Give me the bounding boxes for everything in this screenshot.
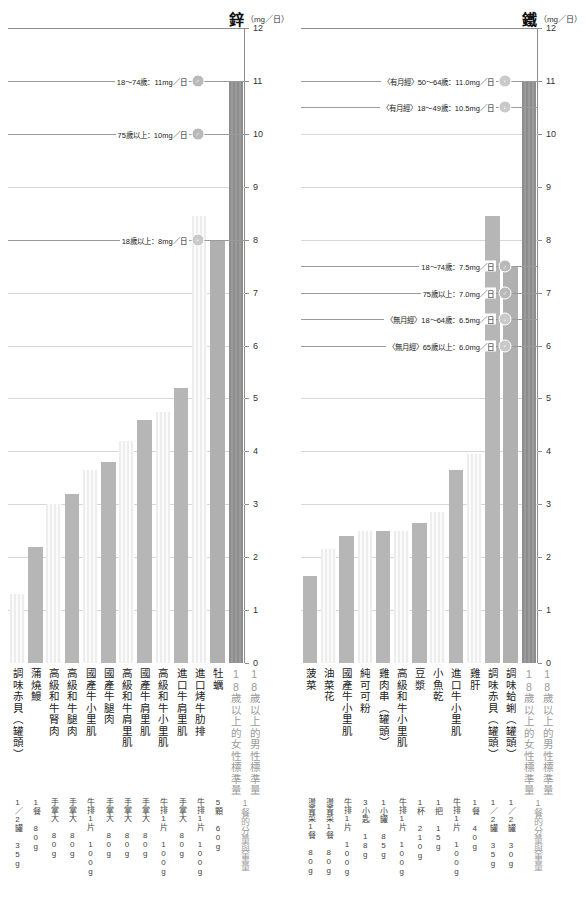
y-axis-tick-label: 11 — [253, 76, 262, 86]
category-label-3: 純可可粉 — [359, 668, 370, 714]
standard-label-male: 18歲以上的男性標準量 — [248, 668, 259, 797]
serving-size-4: 牛排1片 100g — [85, 798, 94, 876]
serving-size-10: 牛排1片 100g — [194, 798, 203, 876]
bar-zinc-7 — [137, 420, 152, 663]
category-label-7: 國產牛肩里肌 — [139, 668, 150, 737]
bar-iron-10 — [485, 216, 500, 663]
y-axis-tickmark — [245, 663, 249, 664]
y-axis-tickmark — [538, 451, 542, 452]
serving-size-group: 燙青菜1餐 80g燙青菜1餐 80g牛排1片 100g3小匙 18g1小罐 85… — [301, 798, 538, 897]
y-axis-tick-label: 9 — [253, 182, 258, 192]
y-axis-tickmark — [245, 134, 249, 135]
bar-zinc-4 — [83, 470, 98, 663]
y-axis-tick-label: 0 — [253, 658, 258, 668]
y-axis-tickmark — [245, 398, 249, 399]
annotation-marker-female: ♀ — [498, 313, 511, 326]
annotation-marker-male: ♂ — [191, 127, 204, 140]
category-label-1: 油菜花 — [322, 668, 333, 703]
bar-zinc-2 — [46, 504, 61, 663]
serving-size-9: 1餐 40g — [469, 798, 478, 851]
y-axis-tickmark — [245, 451, 249, 452]
bar-iron-9 — [467, 454, 482, 663]
annotation-marker-male: ♂ — [191, 74, 204, 87]
y-axis-tick-label: 8 — [546, 235, 551, 245]
y-axis-tickmark — [538, 346, 542, 347]
category-label-0: 調味赤貝（罐頭） — [11, 668, 22, 760]
y-axis-tickmark — [538, 610, 542, 611]
serving-size-9: 手掌大 80g — [176, 798, 185, 858]
y-axis-tick-label: 2 — [546, 552, 551, 562]
bar-zinc-1 — [28, 547, 43, 663]
y-axis-tickmark — [538, 81, 542, 82]
y-axis-tickmark — [245, 610, 249, 611]
category-label-4: 雞肉串（罐頭） — [377, 668, 388, 749]
standard-label-male: 18歲以上的男性標準量 — [541, 668, 552, 797]
annotation-label: 〈無月經〉65歲以上：6.0mg／日 — [386, 340, 496, 351]
y-axis-tick-label: 12 — [546, 23, 556, 33]
annotation-marker-female: ♀ — [498, 339, 511, 352]
y-axis-tickmark — [245, 240, 249, 241]
y-axis-tick-label: 4 — [546, 446, 551, 456]
serving-size-1: 1餐 80g — [30, 798, 39, 851]
y-axis-tick-label: 8 — [253, 235, 258, 245]
serving-size-8: 牛排1片 100g — [158, 798, 167, 876]
bar-zinc-8 — [156, 412, 171, 663]
category-label-2: 國產牛小里肌 — [341, 668, 352, 737]
y-axis-tickmark — [245, 557, 249, 558]
annotation-marker-female: ♀ — [498, 74, 511, 87]
serving-size-group: 1／2罐 35g1餐 80g手掌大 80g手掌大 80g牛排1片 100g手掌大… — [8, 798, 245, 897]
y-axis-tickmark — [245, 504, 249, 505]
category-label-6: 豆漿 — [414, 668, 425, 691]
bar-iron-3 — [358, 531, 373, 663]
zinc-panel: 鋅（mg／日）18〜74歲：11mg／日♂75歲以上：10mg／日♂18歲以上：… — [0, 0, 293, 897]
y-axis-tick-label: 1 — [253, 605, 258, 615]
standard-label-female: 18歲以上的女性標準量 — [523, 668, 534, 797]
y-axis-tickmark — [245, 187, 249, 188]
bar-iron-7 — [430, 512, 445, 663]
bar-standard-male — [522, 81, 537, 663]
annotation-label: 75歲以上：10mg／日 — [116, 128, 189, 139]
annotation-label: 〈有月經〉50〜64歲：11.0mg／日 — [381, 75, 496, 86]
y-axis-tick-label: 5 — [546, 393, 551, 403]
serving-size-2: 牛排1片 100g — [342, 798, 351, 876]
serving-size-0: 1／2罐 35g — [12, 798, 21, 868]
serving-size-5: 手掌大 80g — [103, 798, 112, 858]
category-label-1: 蒲燒鰻 — [29, 668, 40, 703]
serving-size-11: 1／2罐 30g — [506, 798, 515, 868]
y-axis-tickmark — [538, 398, 542, 399]
bar-standard-female — [503, 266, 518, 663]
annotation-marker-male: ♂ — [498, 260, 511, 273]
serving-size-10: 1／2罐 35g — [487, 798, 496, 868]
y-axis-tick-label: 5 — [253, 393, 258, 403]
y-axis-tick-label: 4 — [253, 446, 258, 456]
y-axis-tickmark — [538, 240, 542, 241]
y-axis-tickmark — [538, 187, 542, 188]
annotation-label: 〈有月經〉18〜49歲：10.5mg／日 — [380, 102, 496, 113]
y-axis-tickmark — [538, 134, 542, 135]
serving-size-1: 燙青菜1餐 80g — [323, 798, 332, 875]
y-axis-tickmark — [538, 504, 542, 505]
category-label-7: 小魚乾 — [432, 668, 443, 703]
category-label-5: 國產牛腿肉 — [102, 668, 113, 726]
y-axis-tick-label: 11 — [546, 76, 555, 86]
serving-size-7: 手掌大 80g — [140, 798, 149, 858]
y-axis-tick-label: 1 — [546, 605, 551, 615]
bar-standard-female — [210, 240, 225, 663]
serving-size-8: 牛排1片 100g — [451, 798, 460, 876]
bar-zinc-5 — [101, 462, 116, 663]
category-label-3: 高級和牛腿肉 — [66, 668, 77, 737]
category-label-4: 國產牛小里肌 — [84, 668, 95, 737]
y-axis-tick-label: 2 — [253, 552, 258, 562]
bar-iron-4 — [376, 531, 391, 663]
category-label-0: 菠菜 — [304, 668, 315, 691]
category-label-8: 高級和牛小里肌 — [157, 668, 168, 749]
y-axis-tickmark — [245, 346, 249, 347]
category-label-10: 調味赤貝（罐頭） — [486, 668, 497, 760]
y-axis-tickmark — [538, 28, 542, 29]
y-axis-tick-label: 12 — [253, 23, 263, 33]
serving-size-6: 1杯 210g — [415, 798, 424, 860]
category-label-11: 牡蠣 — [212, 668, 223, 691]
bar-group — [8, 28, 245, 663]
plot-area: 〈有月經〉50〜64歲：11.0mg／日♀〈有月經〉18〜49歲：10.5mg／… — [301, 28, 538, 663]
plot-area: 18〜74歲：11mg／日♂75歲以上：10mg／日♂18歲以上：8mg／日♀ — [8, 28, 245, 663]
